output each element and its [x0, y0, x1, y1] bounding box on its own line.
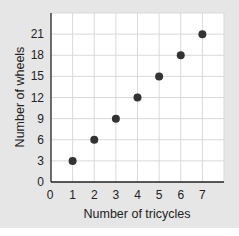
data-point — [69, 157, 77, 165]
x-tick-label: 1 — [69, 188, 76, 202]
data-point — [155, 72, 163, 80]
x-tick-label: 3 — [113, 188, 120, 202]
data-point — [90, 136, 98, 144]
y-axis-label: Number of wheels — [13, 47, 27, 148]
y-tick-label: 18 — [31, 48, 45, 62]
data-point — [112, 115, 120, 123]
data-point — [134, 94, 142, 102]
x-tick-label: 4 — [134, 188, 141, 202]
x-tick-labels: 01234567 — [47, 188, 206, 202]
scatter-chart: 01234567 036912151821 Number of tricycle… — [0, 0, 239, 236]
y-tick-label: 3 — [37, 154, 44, 168]
data-point — [177, 51, 185, 59]
x-tick-label: 6 — [177, 188, 184, 202]
x-tick-label: 2 — [91, 188, 98, 202]
x-tick-label: 7 — [199, 188, 206, 202]
x-axis-label: Number of tricycles — [84, 207, 191, 221]
y-tick-label: 12 — [31, 91, 45, 105]
x-tick-label: 0 — [47, 188, 54, 202]
y-tick-label: 9 — [37, 112, 44, 126]
y-tick-label: 0 — [37, 175, 44, 189]
y-tick-label: 6 — [37, 133, 44, 147]
y-tick-label: 21 — [31, 27, 45, 41]
x-tick-label: 5 — [156, 188, 163, 202]
data-point — [198, 30, 206, 38]
y-tick-labels: 036912151821 — [31, 27, 45, 189]
y-tick-label: 15 — [31, 69, 45, 83]
